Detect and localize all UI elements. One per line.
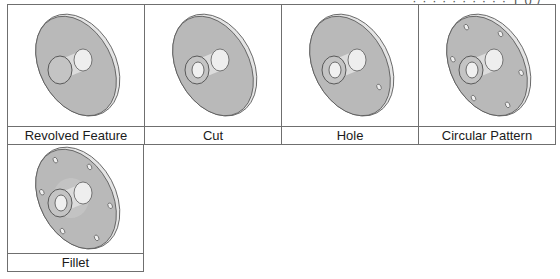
feature-label: Cut xyxy=(145,126,281,144)
part-image-circular-pattern xyxy=(419,5,555,126)
feature-label: Circular Pattern xyxy=(419,126,555,144)
feature-cell-revolved: Revolved Feature xyxy=(7,4,145,145)
part-image-fillet xyxy=(8,145,143,253)
part-image-cut xyxy=(145,5,281,126)
grid-row-1: Revolved Feature Cut xyxy=(7,5,556,145)
feature-grid: Revolved Feature Cut xyxy=(7,5,556,272)
feature-cell-fillet: Fillet xyxy=(7,144,144,272)
grid-row-2: Fillet xyxy=(7,145,556,272)
hole-disc-icon xyxy=(295,8,405,124)
feature-cell-hole: Hole xyxy=(281,4,419,145)
cut-disc-icon xyxy=(158,8,268,124)
feature-label: Hole xyxy=(282,126,418,144)
part-image-revolved xyxy=(8,5,144,126)
feature-cell-cut: Cut xyxy=(144,4,282,145)
revolved-disc-icon xyxy=(21,8,131,124)
feature-label: Fillet xyxy=(8,253,143,271)
fillet-disc-icon xyxy=(21,145,131,253)
circular-pattern-disc-icon xyxy=(432,8,542,124)
feature-cell-circular-pattern: Circular Pattern xyxy=(418,4,556,145)
feature-label: Revolved Feature xyxy=(8,126,144,144)
part-image-hole xyxy=(282,5,418,126)
